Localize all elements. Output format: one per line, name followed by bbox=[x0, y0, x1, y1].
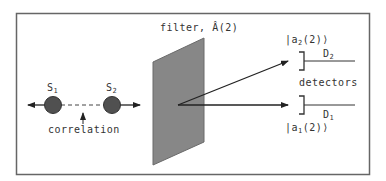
source-s2-label: S2 bbox=[106, 82, 117, 95]
detector-d2-bracket bbox=[299, 52, 304, 70]
filter-plate bbox=[153, 38, 204, 165]
diagram-canvas: S1 S2 correlation filter, Â(2) D2 |a2(2)… bbox=[0, 0, 386, 181]
detectors-label: detectors bbox=[299, 77, 358, 88]
state-a1-label: |a1(2)⟩ bbox=[285, 122, 329, 135]
filter-label: filter, Â(2) bbox=[160, 21, 238, 33]
detector-d1-label: D1 bbox=[323, 109, 334, 122]
detector-d2-label: D2 bbox=[323, 48, 334, 61]
correlation-label: correlation bbox=[48, 124, 120, 135]
state-a2-label: |a2(2)⟩ bbox=[285, 34, 329, 47]
detector-d1-bracket bbox=[299, 96, 304, 114]
source-s1-label: S1 bbox=[47, 82, 58, 95]
source-s1 bbox=[45, 97, 62, 114]
source-s2 bbox=[104, 97, 121, 114]
